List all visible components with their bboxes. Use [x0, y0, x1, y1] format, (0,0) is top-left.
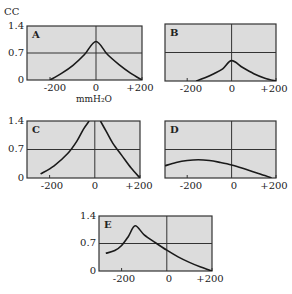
panel-b-plot: B	[165, 24, 276, 81]
panel-b-label: B	[170, 27, 178, 38]
panel-e-plot: E	[99, 216, 212, 271]
panel-d-label: D	[170, 124, 179, 135]
panel-d-plot: D	[165, 121, 276, 178]
panel-c-label: C	[32, 124, 40, 135]
panel-e-label: E	[104, 219, 112, 230]
panel-a-label: A	[31, 29, 40, 40]
panel-a-plot: A	[27, 26, 142, 80]
panel-c-plot: C	[27, 121, 140, 178]
figure-canvas: A B C D E	[0, 0, 292, 294]
